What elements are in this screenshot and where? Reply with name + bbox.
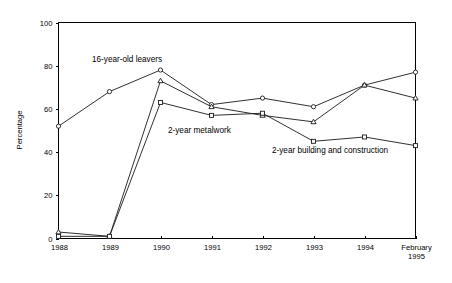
chart-canvas: 020406080100 198819891990199119921993199…: [0, 0, 452, 283]
series-2-year-building-and-construction: [57, 100, 418, 238]
data-point-triangle: [158, 78, 163, 82]
x-tick-label: 1995: [408, 252, 425, 261]
y-tick-label: 40: [44, 148, 52, 157]
x-tick-label: 1994: [357, 243, 374, 252]
data-point-square: [312, 139, 316, 143]
series-annotation: 2-year building and construction: [272, 146, 389, 155]
data-point-triangle: [56, 229, 61, 233]
x-tick-label: 1989: [102, 243, 119, 252]
data-point-square: [363, 135, 367, 139]
line-chart: 020406080100 198819891990199119921993199…: [0, 0, 452, 283]
data-point-circle: [56, 124, 60, 128]
y-tick-label: 100: [40, 19, 53, 28]
y-axis-tick-labels: 020406080100: [40, 19, 53, 244]
y-tick-label: 20: [44, 191, 52, 200]
data-point-square: [57, 234, 61, 238]
data-point-square: [261, 111, 265, 115]
data-point-triangle: [362, 83, 367, 87]
data-point-circle: [413, 70, 417, 74]
series-2-year-metalwork: [56, 78, 418, 238]
y-tick-label: 80: [44, 62, 52, 71]
data-point-square: [414, 144, 418, 148]
x-tick-label: 1992: [255, 243, 272, 252]
data-point-circle: [107, 90, 111, 94]
series-polyline: [59, 70, 416, 126]
y-tick-label: 60: [44, 105, 52, 114]
data-point-circle: [260, 96, 264, 100]
data-point-triangle: [311, 119, 316, 123]
series-polyline: [59, 81, 416, 237]
x-tick-label: February: [401, 243, 432, 252]
series-annotations: 16-year-old leavers2-year metalwork2-yea…: [92, 55, 389, 155]
series-16-year-old-leavers: [56, 68, 417, 128]
y-axis-title: Percentage: [15, 111, 24, 150]
series-annotation: 16-year-old leavers: [92, 55, 162, 64]
data-point-square: [210, 113, 214, 117]
x-tick-label: 1991: [204, 243, 221, 252]
data-point-circle: [158, 68, 162, 72]
x-tick-label: 1988: [51, 243, 68, 252]
data-point-circle: [311, 105, 315, 109]
series-annotation: 2-year metalwork: [168, 126, 232, 135]
x-axis-tick-labels: 1988198919901991199219931994February1995: [51, 243, 432, 262]
data-point-triangle: [413, 96, 418, 100]
x-tick-label: 1990: [153, 243, 170, 252]
data-point-square: [159, 100, 163, 104]
data-point-square: [108, 234, 112, 238]
x-tick-label: 1993: [306, 243, 323, 252]
series-polyline: [59, 102, 416, 236]
